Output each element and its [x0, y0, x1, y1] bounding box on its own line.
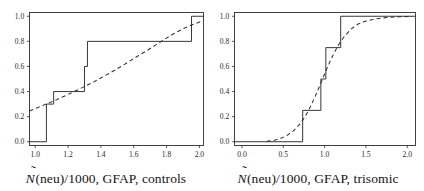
x-tick-label: 2.0 — [195, 150, 205, 159]
n-hat-symbol: Ñ — [26, 171, 36, 186]
y-tick-label: 0.2 — [220, 112, 230, 121]
x-tick-label: 1.5 — [361, 150, 371, 159]
y-axis-trisomic: 0.00.20.40.60.81.0 — [220, 12, 235, 146]
empirical-cdf-step — [30, 16, 204, 141]
empirical-cdf-step — [235, 16, 416, 141]
y-tick-label: 0.4 — [220, 87, 230, 96]
x-tick-label: 1.0 — [30, 150, 40, 159]
plot-area-trisomic: 0.00.20.40.60.81.0 0.00.51.01.52.0 — [220, 12, 416, 159]
plot-area-controls: 0.00.20.40.60.81.0 1.01.21.41.61.82.0 — [15, 12, 205, 159]
x-tick-label: 0.0 — [237, 150, 247, 159]
plot-frame — [30, 13, 204, 146]
panel-trisomic: 0.00.20.40.60.81.0 0.00.51.01.52.0 Ñ(ne… — [212, 0, 424, 191]
y-axis-controls: 0.00.20.40.60.81.0 — [15, 12, 30, 146]
x-tick-label: 0.5 — [279, 150, 289, 159]
fitted-cdf-curve — [30, 21, 204, 111]
x-tick-label: 1.0 — [320, 150, 330, 159]
y-tick-label: 1.0 — [15, 12, 25, 21]
y-tick-label: 0.8 — [220, 37, 230, 46]
figure-container: 0.00.20.40.60.81.0 1.01.21.41.61.82.0 Ñ… — [0, 0, 424, 191]
y-tick-label: 0.0 — [220, 137, 230, 146]
y-tick-label: 0.0 — [15, 137, 25, 146]
x-tick-label: 2.0 — [402, 150, 412, 159]
y-tick-label: 1.0 — [220, 12, 230, 21]
x-tick-label: 1.8 — [162, 150, 172, 159]
plot-controls: 0.00.20.40.60.81.0 1.01.21.41.61.82.0 — [0, 0, 212, 165]
plot-trisomic: 0.00.20.40.60.81.0 0.00.51.01.52.0 — [212, 0, 424, 165]
fitted-cdf-curve — [267, 16, 412, 141]
caption-controls: Ñ(neu)/1000, GFAP, controls — [0, 171, 212, 187]
y-tick-label: 0.6 — [15, 62, 25, 71]
caption-rest-controls: (neu)/1000, GFAP, controls — [35, 171, 186, 186]
y-tick-label: 0.4 — [15, 87, 25, 96]
panel-controls: 0.00.20.40.60.81.0 1.01.21.41.61.82.0 Ñ… — [0, 0, 212, 191]
x-tick-label: 1.2 — [63, 150, 73, 159]
y-tick-label: 0.8 — [15, 37, 25, 46]
caption-rest-trisomic: (neu)/1000, GFAP, trisomic — [247, 171, 399, 186]
caption-trisomic: Ñ(neu)/1000, GFAP, trisomic — [212, 171, 424, 187]
y-tick-label: 0.2 — [15, 112, 25, 121]
n-hat-symbol: Ñ — [237, 171, 247, 186]
x-axis-trisomic: 0.00.51.01.52.0 — [237, 146, 412, 160]
x-axis-controls: 1.01.21.41.61.82.0 — [30, 146, 204, 160]
x-tick-label: 1.4 — [96, 150, 106, 159]
x-tick-label: 1.6 — [129, 150, 139, 159]
y-tick-label: 0.6 — [220, 62, 230, 71]
